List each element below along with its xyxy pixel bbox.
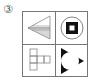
cell-bottom-left (23, 45, 55, 77)
circle-square-icon (56, 12, 88, 44)
circle-triangles-icon (56, 45, 88, 77)
cell-top-left (23, 12, 55, 44)
squares-cross-icon (23, 45, 55, 77)
figure-grid (22, 11, 88, 77)
arrowhead-triangle-icon (23, 12, 55, 44)
cell-top-right (56, 12, 88, 44)
cell-bottom-right (56, 45, 88, 77)
question-label: ③ (3, 4, 13, 16)
